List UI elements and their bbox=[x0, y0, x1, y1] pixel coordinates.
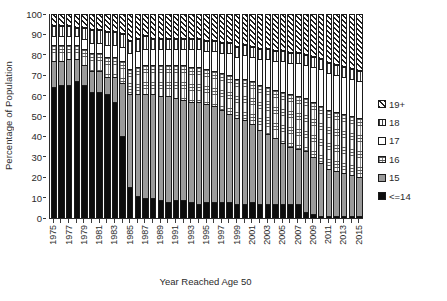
stacked-bar bbox=[104, 14, 110, 218]
stacked-bar bbox=[272, 14, 278, 218]
bar-segment-18 bbox=[81, 28, 87, 38]
bar-column bbox=[103, 14, 111, 218]
y-axis-tick-mark bbox=[43, 34, 46, 35]
stacked-bar bbox=[150, 14, 156, 218]
bar-segment-18 bbox=[58, 26, 64, 36]
bar-segment-lte14 bbox=[265, 204, 271, 218]
bar-segment-18 bbox=[188, 39, 194, 49]
x-axis-tick-mark bbox=[183, 219, 184, 223]
bar-column bbox=[233, 14, 241, 218]
legend-label: 16 bbox=[389, 154, 400, 165]
bar-segment-17 bbox=[349, 79, 355, 116]
legend-swatch bbox=[378, 174, 386, 182]
bar-segment-15 bbox=[234, 118, 240, 204]
bar-column bbox=[241, 14, 249, 218]
bar-segment-17 bbox=[96, 43, 102, 53]
bar-column bbox=[126, 14, 134, 218]
bar-column bbox=[302, 14, 310, 218]
bar-segment-19plus bbox=[89, 14, 95, 30]
bar-segment-15 bbox=[112, 77, 118, 101]
bar-segment-17 bbox=[188, 49, 194, 67]
bar-segment-18 bbox=[89, 30, 95, 42]
bar-segment-lte14 bbox=[356, 216, 362, 218]
bar-column bbox=[149, 14, 157, 218]
bar-segment-16 bbox=[287, 94, 293, 147]
bar-segment-19plus bbox=[180, 14, 186, 38]
y-axis-tick-mark bbox=[43, 177, 46, 178]
bar-segment-17 bbox=[234, 57, 240, 79]
bar-segment-18 bbox=[96, 30, 102, 42]
stacked-bar bbox=[356, 14, 362, 218]
bar-segment-18 bbox=[104, 32, 110, 44]
bar-segment-15 bbox=[257, 130, 263, 203]
bar-segment-15 bbox=[211, 106, 217, 202]
bar-segment-17 bbox=[287, 63, 293, 94]
bar-segment-16 bbox=[150, 65, 156, 94]
bar-segment-16 bbox=[226, 75, 232, 114]
bar-segment-17 bbox=[310, 67, 316, 102]
bar-segment-19plus bbox=[74, 14, 80, 28]
bar-column bbox=[81, 14, 89, 218]
bar-segment-16 bbox=[318, 106, 324, 163]
bar-segment-lte14 bbox=[119, 136, 125, 218]
bar-segment-17 bbox=[272, 61, 278, 90]
bar-segment-19plus bbox=[265, 14, 271, 49]
bar-segment-18 bbox=[318, 59, 324, 69]
y-axis-tick-label: 80 bbox=[31, 49, 42, 60]
bar-segment-lte14 bbox=[158, 200, 164, 218]
bar-segment-lte14 bbox=[165, 202, 171, 218]
legend-swatch bbox=[378, 156, 386, 164]
legend-label: 18 bbox=[389, 117, 400, 128]
bar-segment-15 bbox=[74, 59, 80, 81]
stacked-bar bbox=[234, 14, 240, 218]
bar-segment-18 bbox=[333, 65, 339, 75]
stacked-bar bbox=[112, 14, 118, 218]
bar-column bbox=[188, 14, 196, 218]
bar-segment-16 bbox=[135, 67, 141, 94]
bar-segment-16 bbox=[341, 114, 347, 173]
bar-segment-18 bbox=[287, 53, 293, 63]
bar-segment-19plus bbox=[158, 14, 164, 38]
bar-segment-15 bbox=[326, 169, 332, 216]
bar-column bbox=[119, 14, 127, 218]
bar-segment-16 bbox=[203, 69, 209, 104]
legend-swatch bbox=[378, 119, 386, 127]
bar-segment-18 bbox=[219, 43, 225, 53]
bar-segment-18 bbox=[66, 26, 72, 36]
bar-segment-lte14 bbox=[318, 216, 324, 218]
bar-column bbox=[134, 14, 142, 218]
bar-segment-18 bbox=[51, 26, 57, 36]
x-axis-title-text: Year Reached Age 50 bbox=[159, 276, 251, 287]
bar-segment-18 bbox=[356, 71, 362, 81]
bar-column bbox=[58, 14, 66, 218]
y-axis-tick-mark bbox=[43, 197, 46, 198]
stacked-bar bbox=[66, 14, 72, 218]
x-axis-tick-label: 1997 bbox=[216, 225, 226, 245]
bar-segment-17 bbox=[196, 49, 202, 67]
x-axis-tick-mark bbox=[282, 219, 283, 223]
bar-column bbox=[325, 14, 333, 218]
bar-segment-19plus bbox=[280, 14, 286, 51]
bar-segment-lte14 bbox=[326, 216, 332, 218]
bar-segment-16 bbox=[242, 79, 248, 120]
bar-segment-18 bbox=[295, 53, 301, 63]
stacked-bar bbox=[173, 14, 179, 218]
x-axis-tick-mark bbox=[228, 219, 229, 223]
bar-column bbox=[203, 14, 211, 218]
bar-segment-15 bbox=[142, 94, 148, 198]
y-axis-title-text: Percentage of Population bbox=[3, 61, 14, 170]
bar-segment-lte14 bbox=[81, 85, 87, 218]
legend-label: 17 bbox=[389, 135, 400, 146]
x-axis-tick-label: 2005 bbox=[277, 225, 287, 245]
bar-segment-18 bbox=[142, 36, 148, 48]
x-axis-tick-mark bbox=[137, 219, 138, 223]
bar-segment-18 bbox=[234, 47, 240, 57]
bar-segment-lte14 bbox=[188, 202, 194, 218]
bar-segment-16 bbox=[58, 45, 64, 61]
bar-segment-16 bbox=[165, 65, 171, 96]
bar-segment-18 bbox=[249, 47, 255, 57]
bar-segment-19plus bbox=[234, 14, 240, 47]
bar-segment-19plus bbox=[211, 14, 217, 41]
bar-segment-18 bbox=[180, 39, 186, 49]
bar-column bbox=[218, 14, 226, 218]
